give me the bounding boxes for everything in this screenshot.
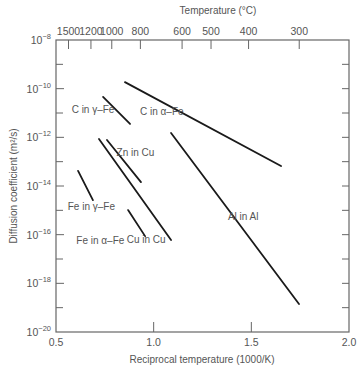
top-tick-label: 300 — [290, 25, 308, 37]
x-tick-label: 1.5 — [244, 336, 259, 348]
y-tick-label: 10−8 — [31, 32, 51, 46]
y-tick-label: 10−10 — [27, 81, 51, 95]
series-label: Fe in α–Fe — [76, 235, 124, 246]
series-c-in-fe: C in γ–Fe — [72, 97, 130, 124]
series-label: Al in Al — [228, 211, 259, 222]
y-tick-label: 10−18 — [27, 275, 51, 289]
series-label: C in α–Fe — [140, 106, 184, 117]
top-tick-label: 400 — [240, 25, 258, 37]
top-temperature-axis: 150012001000800600500400300 — [57, 25, 308, 49]
data-series: C in α–FeC in γ–FeZn in CuCu in CuAl in … — [68, 82, 299, 304]
x-tick-label: 0.5 — [49, 336, 64, 348]
series-label: Cu in Cu — [127, 234, 166, 245]
y-axis-ticks: 10−810−1010−1210−1410−1610−1810−20 — [27, 32, 349, 338]
diffusion-chart: 0.51.01.52.0 10−810−1010−1210−1410−1610−… — [0, 0, 361, 371]
x-tick-label: 1.0 — [146, 336, 161, 348]
top-axis-title: Temperature (°C) — [180, 5, 257, 16]
x-tick-label: 2.0 — [342, 336, 357, 348]
top-tick-label: 1500 — [57, 25, 81, 37]
x-axis-title: Reciprocal temperature (1000/K) — [129, 354, 274, 365]
series-line — [78, 171, 93, 200]
series-label: Zn in Cu — [117, 147, 155, 158]
y-tick-label: 10−14 — [27, 178, 51, 192]
series-al-in-al: Al in Al — [171, 133, 299, 304]
series-label: C in γ–Fe — [72, 104, 115, 115]
y-axis-title: Diffusion coefficient (m²/s) — [8, 128, 19, 243]
top-tick-label: 500 — [202, 25, 220, 37]
x-axis-ticks: 0.51.01.52.0 — [49, 322, 357, 348]
y-tick-label: 10−16 — [27, 227, 51, 241]
series-label: Fe in γ–Fe — [68, 201, 116, 212]
plot-frame — [56, 40, 349, 332]
top-tick-label: 1000 — [100, 25, 124, 37]
y-tick-label: 10−20 — [27, 324, 51, 338]
y-tick-label: 10−12 — [27, 129, 51, 143]
top-tick-label: 600 — [173, 25, 191, 37]
series-fe-in-fe: Fe in γ–Fe — [68, 171, 116, 212]
top-tick-label: 800 — [132, 25, 150, 37]
series-line — [128, 210, 145, 236]
